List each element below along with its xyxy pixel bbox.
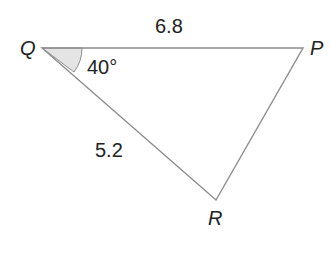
angle-q-shading xyxy=(42,48,82,72)
vertex-p-label: P xyxy=(310,38,323,58)
side-qp-label: 6.8 xyxy=(155,16,183,36)
side-qr-label: 5.2 xyxy=(95,140,123,160)
vertex-q-label: Q xyxy=(20,38,36,58)
triangle-diagram xyxy=(0,0,330,258)
angle-q-label: 40° xyxy=(87,57,117,77)
vertex-r-label: R xyxy=(208,208,222,228)
triangle-pqr xyxy=(42,48,303,200)
